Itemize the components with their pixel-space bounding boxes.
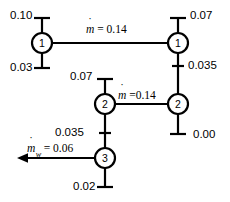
- stub-value-top-right-down: 0.035: [188, 60, 217, 72]
- stub-value-mid-right-out: 0.00: [193, 129, 215, 141]
- mdot-symbol-waste: m: [27, 142, 35, 154]
- stub-value-bottom-out: 0.02: [73, 181, 95, 193]
- equals-middle: =: [126, 89, 135, 101]
- node-label-mid-left: 2: [95, 99, 115, 110]
- diagram-canvas: 1 1 2 2 3 0.10 0.03 0.07 0.035 0.07 0.03…: [0, 0, 230, 202]
- flow-label-middle: m =0.14: [118, 90, 156, 102]
- equals-top: =: [94, 23, 106, 35]
- node-label-mid-right: 2: [168, 99, 188, 110]
- stub-value-top-right-in: 0.07: [190, 10, 212, 22]
- stub-value-mid-left-down: 0.035: [55, 127, 84, 139]
- node-label-bottom: 3: [95, 153, 115, 164]
- node-label-top-left: 1: [32, 38, 52, 49]
- stub-value-mid-left-in: 0.07: [70, 71, 92, 83]
- flow-label-top: m = 0.14: [86, 24, 127, 36]
- mdot-symbol-middle: m: [118, 89, 126, 101]
- stub-value-top-left-in: 0.10: [10, 10, 32, 22]
- node-label-top-right: 1: [168, 38, 188, 49]
- flow-value-middle: 0.14: [136, 89, 156, 101]
- equals-waste: =: [41, 142, 53, 154]
- stub-value-top-left-out: 0.03: [10, 62, 32, 74]
- flow-value-waste: 0.06: [53, 142, 73, 154]
- mdot-symbol-top: m: [86, 23, 94, 35]
- flow-label-waste: mw = 0.06: [27, 143, 73, 158]
- flow-value-top: 0.14: [107, 23, 127, 35]
- mdot-subscript-waste: w: [36, 150, 42, 159]
